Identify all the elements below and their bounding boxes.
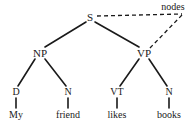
tree-edge-VP-to-VT	[120, 59, 139, 86]
tree-node-VP: VP	[137, 48, 151, 59]
annotation-edge-S-to-nodes	[97, 14, 182, 16]
tree-edge-S-to-NP	[45, 22, 86, 47]
tree-edges-layer	[0, 0, 196, 124]
tree-edge-S-to-VP	[95, 22, 139, 47]
tree-node-D: D	[12, 87, 19, 97]
tree-node-S: S	[87, 12, 93, 23]
tree-node-friend: friend	[56, 110, 80, 120]
tree-node-N1: N	[64, 87, 71, 97]
annotation-label-nodes: nodes	[161, 2, 184, 12]
tree-node-My: My	[9, 110, 23, 120]
annotation-edge-nodes-to-VP	[149, 15, 182, 49]
tree-edge-NP-to-N1	[45, 59, 66, 86]
syntax-tree-diagram: SNPVPDNVTNMyfriendlikesbooks nodes	[0, 0, 196, 124]
tree-edge-NP-to-D	[18, 59, 35, 86]
solid-edge-group	[16, 22, 169, 108]
tree-node-VT: VT	[110, 87, 123, 97]
tree-node-N2: N	[165, 87, 172, 97]
tree-node-NP: NP	[33, 48, 47, 59]
tree-node-likes: likes	[108, 110, 127, 120]
tree-node-books: books	[157, 110, 181, 120]
tree-edge-VP-to-N2	[149, 59, 167, 86]
dashed-edge-group	[97, 14, 182, 49]
